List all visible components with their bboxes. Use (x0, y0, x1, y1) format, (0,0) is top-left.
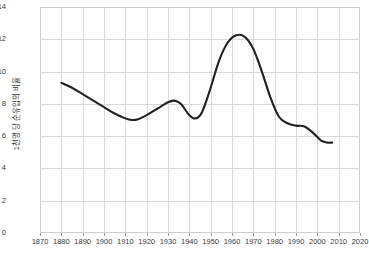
x-axis-tick-mark (211, 233, 212, 236)
x-axis-tick-mark (147, 233, 148, 236)
x-axis-tick-mark (168, 233, 169, 236)
x-axis-tick-mark (232, 233, 233, 236)
series-path-net-migration (61, 35, 332, 143)
y-axis-tick-label: 14 (0, 3, 6, 11)
x-axis-tick-mark (275, 233, 276, 236)
y-axis-tick-label: 2 (0, 197, 6, 205)
x-axis-tick-mark (61, 233, 62, 236)
y-axis-tick-label: 6 (0, 132, 6, 140)
x-axis-tick-mark (125, 233, 126, 236)
x-axis-tick-mark (339, 233, 340, 236)
plot-area (40, 7, 360, 233)
chart-container: 1천명 당 순유입의 비율 02468101214 18701880189019… (0, 0, 369, 259)
y-axis-tick-label: 8 (0, 100, 6, 108)
x-axis-tick-mark (83, 233, 84, 236)
x-axis-tick-mark (360, 233, 361, 236)
x-axis-tick-mark (104, 233, 105, 236)
y-axis-tick-label: 0 (0, 229, 6, 237)
y-axis-tick-label: 12 (0, 35, 6, 43)
x-axis-tick-mark (296, 233, 297, 236)
x-axis-tick-label: 2020 (343, 238, 369, 246)
y-axis-title: 1천명 당 순유입의 비율 (10, 19, 21, 209)
x-axis-tick-mark (189, 233, 190, 236)
y-axis-tick-label: 4 (0, 164, 6, 172)
x-axis-tick-mark (253, 233, 254, 236)
x-axis-tick-mark (317, 233, 318, 236)
series-line-chart (40, 7, 360, 233)
y-axis-tick-label: 10 (0, 68, 6, 76)
x-axis-tick-mark (40, 233, 41, 236)
